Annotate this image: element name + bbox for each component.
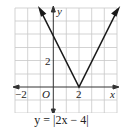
origin-label: O <box>42 88 50 100</box>
tick-label-x-2: 2 <box>76 88 82 100</box>
x-axis-label: x <box>109 88 115 100</box>
y-axis-label: y <box>56 5 62 17</box>
right-branch-arrow-icon <box>113 9 119 16</box>
tick-label-y-2: 2 <box>45 55 51 67</box>
graph: y x −2 O 2 2 <box>0 0 123 113</box>
tick-label-x-neg2: −2 <box>15 88 27 100</box>
equation-caption: y = |2x − 4| <box>0 113 123 128</box>
y-axis-up-arrow-icon <box>51 6 55 12</box>
